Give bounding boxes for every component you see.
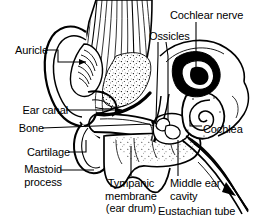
- label-cochlea: Cochlea: [203, 123, 243, 136]
- label-ear-canal: Ear canal: [0, 104, 68, 117]
- label-middle-ear-cavity-line1: Middle ear: [170, 177, 220, 190]
- label-eustachian-tube: Eustachian tube: [158, 205, 235, 218]
- label-auricle: Auricle: [0, 44, 48, 57]
- label-mastoid-process-line1: Mastoid: [0, 163, 62, 176]
- label-cartilage: Cartilage: [0, 146, 70, 159]
- ear-anatomy-figure: Auricle Ear canal Bone Cartilage Mastoid…: [0, 0, 260, 221]
- label-tympanic-membrane-line2: membrane: [78, 190, 184, 203]
- label-ossicles: Ossicles: [149, 30, 190, 43]
- label-middle-ear-cavity: Middle ear cavity: [170, 177, 220, 202]
- label-cochlear-nerve: Cochlear nerve: [170, 9, 243, 22]
- label-bone: Bone: [0, 122, 44, 135]
- label-mastoid-process-line2: process: [0, 176, 62, 189]
- label-mastoid-process: Mastoid process: [0, 163, 62, 188]
- label-middle-ear-cavity-line2: cavity: [170, 190, 220, 203]
- label-tympanic-membrane-line1: Tympanic: [78, 177, 184, 190]
